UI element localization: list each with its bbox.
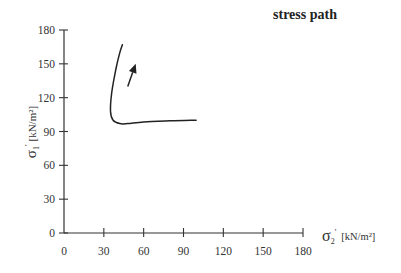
x-tick-label: 0 — [61, 245, 67, 257]
x-axis-label: σ2'[kN/m²] — [322, 227, 375, 246]
y-label-sigma: σ — [23, 150, 39, 158]
y-tick-label: 0 — [49, 227, 55, 239]
y-tick-label: 150 — [38, 58, 56, 70]
x-tick-label: 150 — [255, 245, 273, 257]
direction-arrow-icon — [128, 64, 137, 87]
x-tick-label: 30 — [98, 245, 110, 257]
axes: 0306090120150180 0306090120150180 — [38, 24, 312, 257]
y-label-prime: ' — [23, 144, 33, 146]
y-label-subscript: 1 — [32, 146, 41, 150]
x-ticks: 0306090120150180 — [61, 228, 312, 257]
y-tick-label: 30 — [44, 193, 56, 205]
svg-text:σ2'[kN/m²]: σ2'[kN/m²] — [322, 227, 375, 246]
x-tick-label: 90 — [178, 245, 190, 257]
stress-path-chart: stress path 0306090120150180 03060901201… — [0, 0, 401, 273]
x-label-unit: [kN/m²] — [341, 231, 375, 242]
x-tick-label: 60 — [138, 245, 150, 257]
x-tick-label: 180 — [294, 245, 312, 257]
y-tick-label: 60 — [44, 159, 56, 171]
chart-title: stress path — [273, 7, 337, 22]
y-tick-label: 120 — [38, 92, 56, 104]
x-label-prime: ' — [335, 227, 337, 237]
y-axis-label: σ1'[kN/m²] — [23, 106, 41, 158]
y-tick-label: 90 — [44, 126, 56, 138]
stress-path-line — [110, 45, 196, 124]
x-label-subscript: 2 — [331, 237, 335, 246]
x-tick-label: 120 — [215, 245, 233, 257]
y-label-unit: [kN/m²] — [26, 106, 38, 142]
svg-text:σ1'[kN/m²]: σ1'[kN/m²] — [23, 106, 41, 158]
y-tick-label: 180 — [38, 24, 56, 36]
